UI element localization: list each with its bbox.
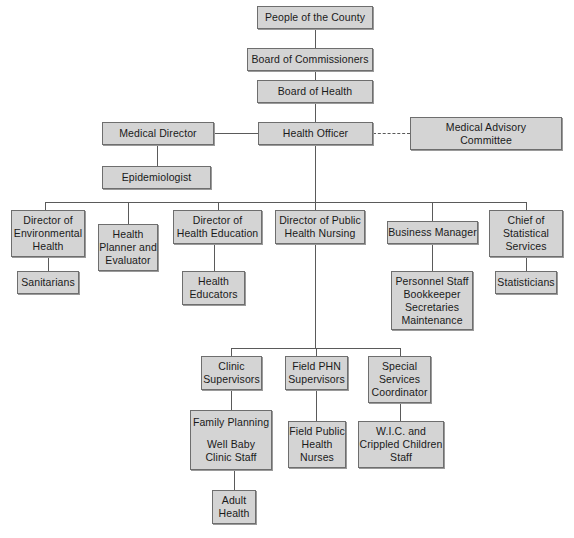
- node-label-line: Medical Director: [119, 127, 196, 140]
- node-label-line: Health: [219, 507, 250, 520]
- node-label-line: Staff: [390, 451, 412, 464]
- connector-phn-trunk: [315, 244, 316, 348]
- node-sanitarians[interactable]: Sanitarians: [17, 271, 79, 294]
- connector-officer-to-director: [214, 133, 258, 134]
- node-label-line: Crippled Children: [360, 438, 443, 451]
- node-label-line: Director of Public: [279, 214, 361, 227]
- connector-bizmgr-to-personnel: [432, 244, 433, 271]
- node-clinic_sup[interactable]: ClinicSupervisors: [201, 356, 262, 390]
- node-label-line: Clinic Staff: [205, 451, 256, 464]
- node-family_planning[interactable]: Family PlanningWell BabyClinic Staff: [190, 410, 272, 470]
- connector-clinic-to-family: [231, 390, 232, 410]
- node-label-line: Coordinator: [372, 386, 428, 399]
- connector-drop-clinic: [231, 348, 232, 356]
- connector-drop-env: [45, 202, 46, 210]
- node-adult_health[interactable]: AdultHealth: [212, 490, 256, 524]
- node-wic[interactable]: W.I.C. andCrippled ChildrenStaff: [358, 421, 444, 468]
- org-chart: People of the CountyBoard of Commissione…: [0, 0, 574, 538]
- node-commissioners[interactable]: Board of Commissioners: [247, 48, 373, 71]
- node-label-line: Health: [113, 228, 144, 241]
- node-label-line: Services: [505, 240, 546, 253]
- node-label-line: Epidemiologist: [122, 171, 192, 184]
- node-chief_stat[interactable]: Chief ofStatisticalServices: [489, 210, 563, 257]
- node-special_services[interactable]: SpecialServicesCoordinator: [368, 356, 431, 403]
- node-label-line: Chief of: [508, 214, 545, 227]
- node-label-line: Board of Commissioners: [251, 53, 368, 66]
- node-label-line: Sanitarians: [21, 276, 75, 289]
- node-label-line: Bookkeeper: [403, 288, 460, 301]
- connector-family-to-adult: [234, 470, 235, 490]
- node-label-line: Medical Advisory: [446, 121, 526, 134]
- node-dir_phn[interactable]: Director of PublicHealth Nursing: [275, 210, 365, 244]
- node-label-line: Health Education: [177, 227, 259, 240]
- node-label-line: Family Planning: [193, 416, 269, 429]
- connector-board-to-officer: [315, 103, 316, 122]
- node-label-line: W.I.C. and: [376, 425, 426, 438]
- node-label-line: Supervisors: [288, 373, 345, 386]
- node-label-line: Adult: [222, 494, 246, 507]
- connector-drop-phn: [315, 202, 316, 210]
- node-label-line: Services: [379, 373, 420, 386]
- connector-drop-healthed: [218, 202, 219, 210]
- node-health_educators[interactable]: HealthEducators: [182, 271, 245, 305]
- node-label-line: Director of: [193, 214, 243, 227]
- connector-fieldphn-to-nurses: [316, 390, 317, 421]
- connector-officer-to-advisory: [373, 133, 410, 134]
- node-dir_env_health[interactable]: Director ofEnvironmentalHealth: [11, 210, 85, 257]
- node-dir_health_ed[interactable]: Director ofHealth Education: [173, 210, 262, 244]
- node-label-line: Field PHN: [292, 360, 341, 373]
- node-label-line: Health: [302, 438, 333, 451]
- node-label-line: Environmental: [14, 227, 82, 240]
- connector-commissioners-to-board: [315, 71, 316, 80]
- node-business_manager[interactable]: Business Manager: [387, 221, 478, 244]
- node-medical_director[interactable]: Medical Director: [102, 122, 214, 145]
- node-label-line: Secretaries: [405, 301, 459, 314]
- node-epidemiologist[interactable]: Epidemiologist: [102, 166, 211, 189]
- node-label-line: Clinic: [218, 360, 244, 373]
- node-label-line: Educators: [189, 288, 237, 301]
- node-label-line: Maintenance: [401, 314, 462, 327]
- connector-tier3-bus: [45, 202, 526, 203]
- connector-people-to-commissioners: [315, 29, 316, 48]
- node-label-line: Statisticians: [497, 276, 554, 289]
- node-statisticians[interactable]: Statisticians: [495, 271, 557, 294]
- connector-drop-bizmgr: [432, 202, 433, 221]
- node-label-line: Health: [33, 240, 64, 253]
- node-personnel[interactable]: Personnel StaffBookkeeperSecretariesMain…: [391, 271, 473, 330]
- node-label-line: Planner and: [99, 241, 157, 254]
- connector-env-to-sanitarians: [48, 257, 49, 271]
- node-label-line: Nurses: [300, 451, 334, 464]
- node-label-line: Business Manager: [388, 226, 477, 239]
- node-label-line: Supervisors: [203, 373, 260, 386]
- node-label-line: Board of Health: [278, 85, 352, 98]
- connector-drop-planner: [128, 202, 129, 224]
- node-label-line: Statistical: [503, 227, 549, 240]
- node-label-line: Evaluator: [105, 254, 150, 267]
- connector-healthed-to-educators: [214, 244, 215, 271]
- connector-drop-fieldphn: [316, 348, 317, 356]
- node-label-line: Health: [198, 275, 229, 288]
- connector-chief-to-statisticians: [526, 257, 527, 271]
- node-field_phn_sup[interactable]: Field PHNSupervisors: [285, 356, 348, 390]
- node-health_planner[interactable]: HealthPlanner andEvaluator: [98, 224, 158, 271]
- node-people[interactable]: People of the County: [257, 6, 373, 29]
- node-label-line: Well Baby: [207, 438, 255, 451]
- node-label-line: Committee: [460, 134, 512, 147]
- node-field_nurses[interactable]: Field PublicHealthNurses: [288, 421, 346, 468]
- node-label-line: Field Public: [289, 425, 344, 438]
- connector-drop-special: [400, 348, 401, 356]
- node-label-line: Personnel Staff: [395, 275, 468, 288]
- node-label-line: Health Officer: [283, 127, 348, 140]
- node-label-line: Health Nursing: [285, 227, 356, 240]
- connector-drop-chiefstat: [526, 202, 527, 210]
- node-label-line: Special: [382, 360, 417, 373]
- connector-special-to-wic: [400, 403, 401, 421]
- node-health_officer[interactable]: Health Officer: [258, 122, 373, 145]
- node-board_health[interactable]: Board of Health: [257, 80, 373, 103]
- node-label-line: Director of: [23, 214, 73, 227]
- node-label-line: People of the County: [265, 11, 365, 24]
- connector-director-to-epidemiologist: [157, 145, 158, 166]
- node-medical_advisory[interactable]: Medical AdvisoryCommittee: [410, 117, 562, 150]
- connector-officer-down-to-bus: [315, 145, 316, 202]
